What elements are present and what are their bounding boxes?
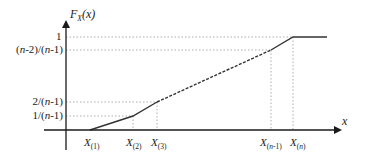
- y-tick-two-over-n1: 2/(n-1): [32, 96, 63, 107]
- y-tick-part: -1): [50, 95, 63, 107]
- x-tick-main: X: [151, 136, 158, 148]
- curve-solid-end: [271, 37, 327, 50]
- ecdf-diagram: FX(x) x 1 (n-2)/(n-1) 2/(n-1) 1/(n-1) X(…: [0, 0, 369, 158]
- x-tick-sub: ): [303, 142, 306, 151]
- x-tick-xn: X(n): [290, 137, 305, 148]
- y-tick-n2-over-n1: (n-2)/(n-1): [16, 44, 63, 55]
- x-tick-main: X: [84, 136, 91, 148]
- y-tick-part: 1/(: [32, 109, 44, 121]
- y-tick-one-over-n1: 1/(n-1): [32, 110, 63, 121]
- x-tick-sub: (2): [133, 142, 142, 151]
- y-tick-part: -2)/(: [25, 43, 45, 55]
- x-tick-main: X: [260, 136, 267, 148]
- x-tick-sub: (1): [91, 142, 100, 151]
- x-tick-x2: X(2): [126, 137, 141, 148]
- x-tick-x3: X(3): [151, 137, 166, 148]
- x-tick-main: X: [290, 136, 297, 148]
- y-label-sub: X: [77, 14, 82, 23]
- y-tick-part: 2/(: [32, 95, 44, 107]
- y-tick-one: 1: [56, 31, 62, 42]
- x-tick-sub: (3): [158, 142, 167, 151]
- y-label-arg: (x): [82, 7, 95, 21]
- x-tick-main: X: [126, 136, 133, 148]
- x-tick-xn1: X(n-1): [260, 137, 282, 148]
- y-axis-label: FX(x): [70, 8, 95, 20]
- x-tick-x1: X(1): [84, 137, 99, 148]
- curve-dashed-middle: [157, 50, 271, 102]
- guide-lines: [66, 37, 293, 130]
- x-axis-label: x: [342, 115, 347, 127]
- y-tick-part: -1): [50, 43, 63, 55]
- x-tick-sub: -1): [273, 142, 282, 151]
- y-tick-part: -1): [50, 109, 63, 121]
